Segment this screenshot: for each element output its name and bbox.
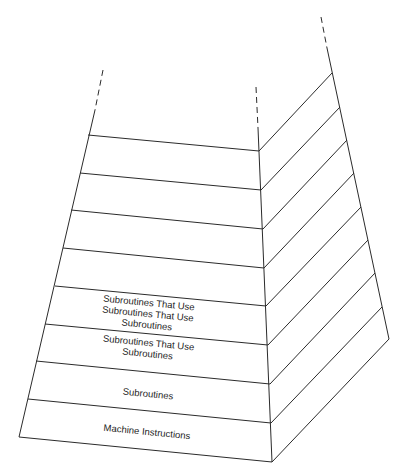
side-band-line — [268, 240, 368, 345]
side-band-line-bottom — [272, 339, 389, 462]
layered-pyramid-diagram: Machine Instructions Subroutines Subrout… — [0, 0, 410, 473]
side-face-bands — [259, 73, 389, 462]
front-band-line — [80, 173, 261, 190]
pyramid-edges — [19, 48, 389, 462]
side-band-line — [270, 273, 375, 384]
side-band-line — [263, 140, 347, 229]
layer-label-machine-instructions: Machine Instructions — [103, 422, 191, 441]
middle-edge-dash — [256, 87, 258, 128]
layer-label-subroutines: Subroutines — [122, 386, 174, 402]
side-band-line — [266, 207, 361, 306]
layer-labels: Machine Instructions Subroutines Subrout… — [101, 293, 196, 442]
right-edge — [327, 48, 389, 339]
front-band-line — [28, 399, 271, 423]
front-band-line-bottom — [19, 437, 272, 462]
right-edge-dash — [321, 17, 327, 48]
layer-label-subroutines-that-use-subroutines-that-use-subroutines: Subroutines That Use Subroutines That Us… — [101, 293, 196, 335]
side-band-line — [264, 173, 354, 268]
label-line: Subroutines — [122, 386, 174, 402]
label-line: Machine Instructions — [103, 422, 191, 441]
side-band-line — [259, 73, 332, 151]
middle-edge — [258, 128, 272, 462]
front-band-line — [36, 361, 270, 384]
left-edge — [19, 110, 95, 437]
continuation-dashes — [95, 17, 327, 128]
front-band-line — [71, 210, 263, 229]
front-band-line — [63, 248, 264, 268]
front-band-line — [88, 135, 259, 151]
left-edge-dash — [95, 70, 103, 110]
side-band-line — [261, 107, 340, 190]
